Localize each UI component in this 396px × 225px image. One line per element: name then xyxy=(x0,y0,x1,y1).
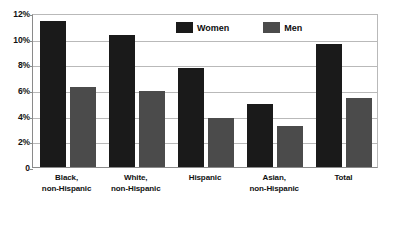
y-tick-label: 4% xyxy=(0,113,30,121)
y-tick-label: 0 xyxy=(0,164,30,172)
bar-women-1 xyxy=(109,35,135,167)
x-category-line2: non-Hispanic xyxy=(240,183,309,194)
x-category-label: Hispanic xyxy=(170,172,239,183)
x-category-line1: Total xyxy=(334,173,352,182)
y-axis: 12%10%8%6%4%2%0 xyxy=(0,14,30,168)
legend-item-men: Men xyxy=(263,22,302,33)
y-tick-label: 10% xyxy=(0,36,30,44)
bars-layer xyxy=(33,15,377,167)
legend-label: Women xyxy=(197,23,229,33)
bar-chart: 12%10%8%6%4%2%0 WomenMen Black,non-Hispa… xyxy=(0,0,396,225)
x-category-line2: non-Hispanic xyxy=(32,183,101,194)
x-category-line1: Black, xyxy=(55,173,78,182)
x-category-line2: non-Hispanic xyxy=(101,183,170,194)
x-category-line1: White, xyxy=(124,173,147,182)
bar-men-3 xyxy=(277,126,303,167)
y-tick-mark xyxy=(29,169,33,170)
x-category-line1: Asian, xyxy=(262,173,285,182)
y-tick-label: 6% xyxy=(0,87,30,95)
bar-men-0 xyxy=(70,87,96,167)
bar-group xyxy=(109,15,165,167)
bar-women-3 xyxy=(247,104,273,167)
women-swatch xyxy=(176,22,193,33)
x-category-label: Total xyxy=(309,172,378,183)
bar-group xyxy=(40,15,96,167)
legend-label: Men xyxy=(284,23,302,33)
x-category-line1: Hispanic xyxy=(189,173,222,182)
bar-women-4 xyxy=(316,44,342,167)
legend-item-women: Women xyxy=(176,22,229,33)
y-tick-label: 12% xyxy=(0,10,30,18)
men-swatch xyxy=(263,22,280,33)
bar-group xyxy=(247,15,303,167)
bar-group xyxy=(178,15,234,167)
bar-men-1 xyxy=(139,91,165,167)
bar-group xyxy=(316,15,372,167)
bar-women-0 xyxy=(40,21,66,167)
bar-men-4 xyxy=(346,98,372,167)
plot-area xyxy=(32,14,378,168)
x-category-label: White,non-Hispanic xyxy=(101,172,170,194)
x-category-label: Black,non-Hispanic xyxy=(32,172,101,194)
bar-men-2 xyxy=(208,118,234,167)
chart-legend: WomenMen xyxy=(176,22,302,33)
y-tick-label: 8% xyxy=(0,61,30,69)
x-category-label: Asian,non-Hispanic xyxy=(240,172,309,194)
bar-women-2 xyxy=(178,68,204,167)
y-tick-label: 2% xyxy=(0,138,30,146)
x-axis: Black,non-HispanicWhite,non-HispanicHisp… xyxy=(32,172,378,218)
